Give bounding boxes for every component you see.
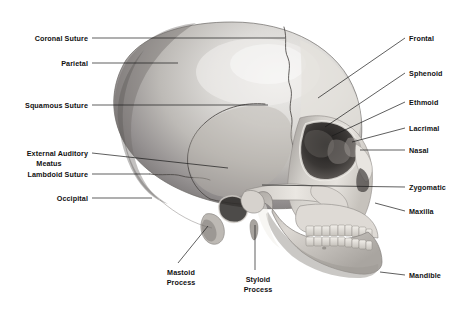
label-nasal: Nasal <box>409 146 467 156</box>
label-coronal-suture: Coronal Suture <box>20 34 88 44</box>
label-ethmoid: Ethmoid <box>409 98 467 108</box>
label-occipital: Occipital <box>20 194 88 204</box>
label-mastoid-process-line2: Process <box>155 278 207 288</box>
leader-maxilla <box>375 203 405 211</box>
label-external-auditory-meatus-line1: External Auditory <box>10 149 88 159</box>
parietal-highlight-2 <box>230 44 306 84</box>
label-maxilla-text: Maxilla <box>409 207 434 216</box>
label-sphenoid-text: Sphenoid <box>409 69 443 78</box>
label-frontal-text: Frontal <box>409 34 434 43</box>
label-coronal-suture-text: Coronal Suture <box>35 34 88 43</box>
label-mastoid-process-line1: Mastoid <box>155 268 207 278</box>
label-lambdoid-suture: Lambdoid Suture <box>14 170 88 180</box>
label-styloid-process-line1: Styloid <box>234 275 282 285</box>
label-sphenoid: Sphenoid <box>409 69 467 79</box>
leader-mastoid-process <box>178 226 208 263</box>
label-nasal-text: Nasal <box>409 146 429 155</box>
skull-diagram: Coronal Suture Parietal Squamous Suture … <box>0 0 468 325</box>
label-parietal: Parietal <box>20 59 88 69</box>
label-styloid-process: Styloid Process <box>234 275 282 294</box>
label-squamous-suture: Squamous Suture <box>14 101 88 111</box>
label-frontal: Frontal <box>409 34 467 44</box>
mental-foramen <box>322 246 326 249</box>
label-ethmoid-text: Ethmoid <box>409 98 438 107</box>
label-maxilla: Maxilla <box>409 207 467 217</box>
label-lacrimal: Lacrimal <box>409 124 467 134</box>
label-parietal-text: Parietal <box>61 59 88 68</box>
label-mandible: Mandible <box>409 271 467 281</box>
label-mastoid-process: Mastoid Process <box>155 268 207 287</box>
styloid-process <box>250 219 258 240</box>
label-lambdoid-suture-text: Lambdoid Suture <box>27 170 88 179</box>
label-external-auditory-meatus: External Auditory Meatus <box>10 149 88 168</box>
label-zygomatic-text: Zygomatic <box>409 183 446 192</box>
label-zygomatic: Zygomatic <box>409 183 467 193</box>
label-squamous-suture-text: Squamous Suture <box>25 101 88 110</box>
label-lacrimal-text: Lacrimal <box>409 124 439 133</box>
label-external-auditory-meatus-line2: Meatus <box>10 159 88 169</box>
label-styloid-process-line2: Process <box>234 285 282 295</box>
leader-mandible <box>380 272 405 275</box>
label-mandible-text: Mandible <box>409 271 441 280</box>
label-occipital-text: Occipital <box>57 194 88 203</box>
